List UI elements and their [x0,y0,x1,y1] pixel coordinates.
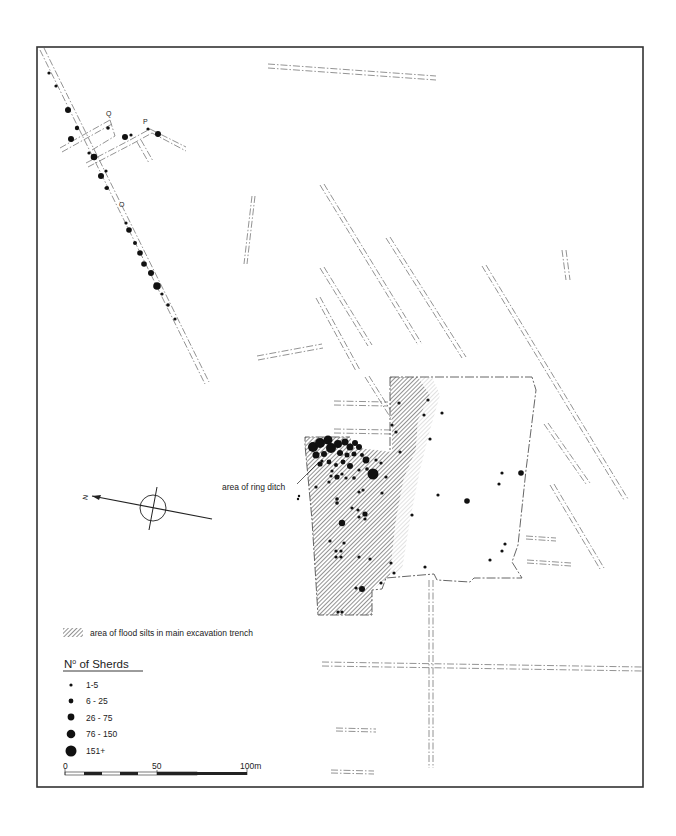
legend: area of flood silts in main excavation t… [63,628,253,757]
legend-label: 6 - 25 [86,696,108,706]
legend-title-rest: of Sherds [76,658,129,670]
sherd-finds [47,71,523,613]
legend-class-5: 151+ [66,746,106,757]
scale-label-100m: 100m [240,761,261,771]
scale-bar: 0 50 100m [63,761,261,775]
trial-trenches [40,48,642,774]
excavation-site-map: Q P O area of ring ditch N area of flood… [0,0,676,836]
legend-hatch-label: area of flood silts in main excavation t… [90,628,253,638]
legend-label: 76 - 150 [86,729,117,739]
north-arrow-letter: N [81,494,89,500]
svg-text:No of Sherds: No of Sherds [64,658,129,670]
trench-q [60,120,132,167]
legend-label: 26 - 75 [86,713,113,723]
ring-ditch-label: area of ring ditch [222,482,286,492]
legend-class-4: 76 - 150 [67,729,118,739]
trench-o [40,48,209,384]
scale-label-0: 0 [63,761,68,771]
legend-label: 151+ [86,746,105,756]
legend-title: No of Sherds [63,658,143,671]
legend-label: 1-5 [86,680,99,690]
legend-class-2: 6 - 25 [69,696,108,706]
north-arrow: N [81,487,212,530]
legend-class-1: 1-5 [69,680,98,690]
legend-hatch-swatch [63,628,83,637]
scale-label-50: 50 [152,761,162,771]
legend-title-n: N [64,658,72,670]
legend-class-3: 26 - 75 [68,713,113,723]
main-excavation-trench [305,377,536,615]
trench-label-q: Q [106,110,112,118]
trench-label-p: P [143,118,148,125]
map-frame [37,47,643,787]
trench-label-o: O [119,201,125,208]
